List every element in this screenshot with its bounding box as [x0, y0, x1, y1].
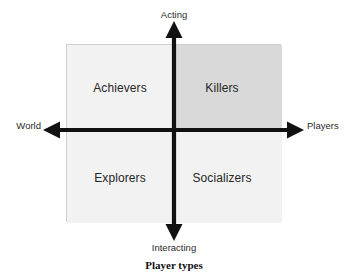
- axis-label-acting: Acting: [161, 9, 187, 20]
- quadrant-label-achievers: Achievers: [93, 81, 147, 95]
- quadrant-label-socializers: Socializers: [192, 171, 251, 185]
- arrowhead-up-icon: [166, 21, 183, 38]
- arrowhead-left-icon: [43, 122, 60, 139]
- arrowhead-down-icon: [166, 224, 183, 241]
- quadrant-label-killers: Killers: [205, 81, 238, 95]
- quadrant-label-explorers: Explorers: [94, 171, 146, 185]
- figure-caption: Player types: [145, 259, 203, 271]
- axis-label-interacting: Interacting: [152, 242, 196, 253]
- player-types-figure: Achievers Killers Explorers Socializers …: [0, 0, 351, 280]
- arrowhead-right-icon: [287, 122, 304, 139]
- axis-label-world: World: [16, 120, 41, 131]
- axis-label-players: Players: [307, 120, 339, 131]
- axis-arrows: [0, 0, 351, 280]
